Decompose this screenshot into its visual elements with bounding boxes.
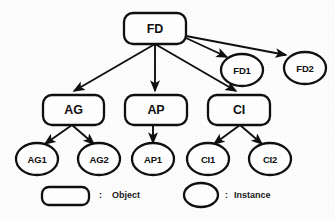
legend-object-separator: : xyxy=(99,190,102,200)
legend-instance-separator: : xyxy=(225,190,228,200)
edge-ag-to-ag2 xyxy=(72,125,94,144)
edge-ci-to-ci2 xyxy=(240,125,262,144)
edge-ag-to-ag1 xyxy=(45,125,72,144)
edge-group xyxy=(45,36,286,144)
object-node-fd[interactable] xyxy=(124,13,186,44)
object-node-ag[interactable] xyxy=(43,95,104,125)
diagram-vector-layer xyxy=(0,0,335,221)
instance-node-fd2[interactable] xyxy=(284,52,326,84)
instance-node-ci1[interactable] xyxy=(187,143,229,175)
edge-ci-to-ci1 xyxy=(214,125,240,144)
object-node-ap[interactable] xyxy=(125,95,187,125)
instance-node-ap1[interactable] xyxy=(132,143,174,175)
legend-instance-swatch xyxy=(184,183,218,207)
legend-object-swatch xyxy=(42,187,89,205)
instance-node-ag2[interactable] xyxy=(78,143,120,175)
legend-object-label: Object xyxy=(112,190,140,200)
diagram-canvas: FD AG AP CI FD1 FD2 AG1 AG2 AP1 CI1 CI2 … xyxy=(0,0,335,221)
instance-node-ci2[interactable] xyxy=(249,143,291,175)
edge-fd-to-ag xyxy=(74,44,155,91)
instance-node-fd1[interactable] xyxy=(221,54,263,86)
instance-node-ag1[interactable] xyxy=(16,143,58,175)
object-node-ci[interactable] xyxy=(208,95,270,125)
legend-instance-label: Instance xyxy=(234,190,271,200)
